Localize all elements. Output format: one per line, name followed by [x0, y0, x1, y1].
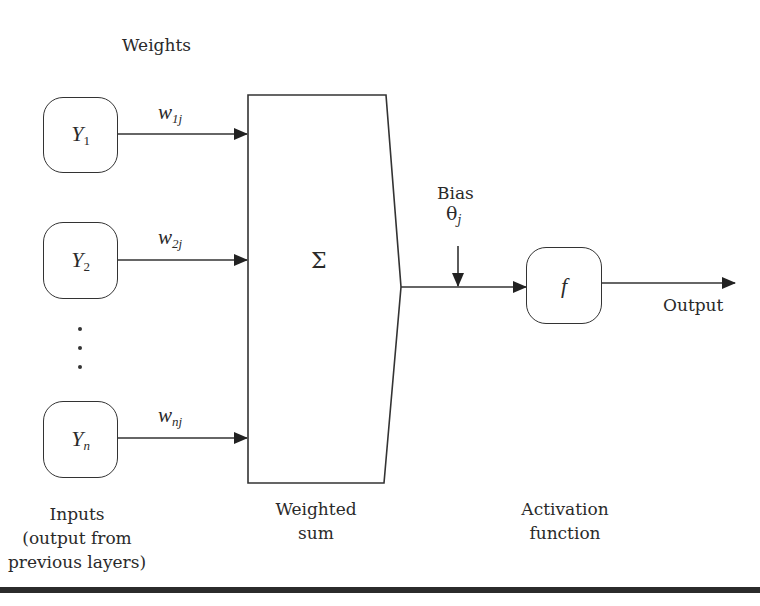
input-symbol-1: Y1 — [44, 121, 117, 149]
output-label: Output — [663, 293, 723, 317]
sum-symbol: Σ — [311, 248, 327, 273]
weights-label: Weights — [122, 33, 191, 57]
ellipsis-dot-1 — [78, 327, 82, 331]
summation-block — [248, 95, 401, 483]
bottom-rule — [0, 587, 760, 593]
input-symbol-2: Y2 — [44, 247, 117, 275]
inputs-caption: Inputs (output from previous layers) — [2, 502, 152, 574]
ellipsis-dot-3 — [78, 365, 82, 369]
input-node-n: Yn — [43, 401, 118, 478]
activation-function-caption: Activation function — [500, 497, 630, 545]
weight-label-n: wnj — [158, 403, 182, 430]
activation-symbol: f — [527, 273, 601, 299]
bias-symbol: θj — [446, 202, 461, 227]
weighted-sum-caption: Weighted sum — [246, 497, 386, 545]
input-node-2: Y2 — [43, 222, 118, 299]
activation-node: f — [526, 247, 602, 324]
ellipsis-dot-2 — [78, 346, 82, 350]
weight-label-1: w1j — [158, 100, 182, 127]
input-node-1: Y1 — [43, 97, 118, 173]
input-symbol-n: Yn — [44, 426, 117, 454]
neuron-diagram: Weights Y1 Y2 Yn w1j w2j wnj Σ Bias θj f… — [0, 0, 760, 606]
weight-label-2: w2j — [158, 225, 182, 252]
